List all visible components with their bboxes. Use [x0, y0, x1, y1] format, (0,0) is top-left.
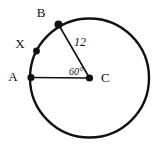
segment-c-to-a: [31, 78, 90, 79]
central-angle-label: 60°: [69, 66, 83, 77]
point-x-dot: [33, 48, 40, 55]
circle-diagram-svg: A X B C 12 60°: [0, 0, 162, 147]
point-label-b: B: [37, 5, 46, 20]
geometry-figure: A X B C 12 60°: [0, 0, 162, 147]
radius-length-label: 12: [74, 35, 86, 49]
point-c-dot: [86, 74, 93, 81]
point-a-dot: [27, 74, 34, 81]
point-b-dot: [55, 21, 63, 29]
point-label-c: C: [101, 70, 110, 85]
point-label-a: A: [8, 69, 18, 84]
point-label-x: X: [15, 36, 25, 51]
